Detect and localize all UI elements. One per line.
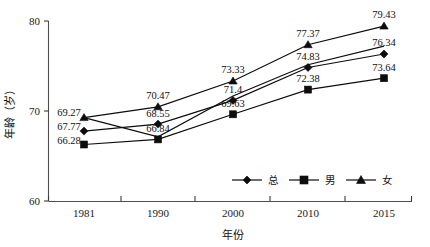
square-icon xyxy=(230,111,237,118)
data-label: 71.4 xyxy=(224,84,243,95)
y-tick-label-70: 70 xyxy=(29,105,41,117)
data-label: 77.37 xyxy=(296,28,320,39)
x-tick-label-2000: 2000 xyxy=(222,207,245,219)
axes-group xyxy=(44,21,412,202)
x-axis-title: 年份 xyxy=(222,228,244,242)
data-label: 73.33 xyxy=(221,64,245,75)
x-tick-labels: 1981 1990 2000 2010 2015 xyxy=(73,207,396,219)
diamond-icon xyxy=(380,50,388,58)
data-label: 66.84 xyxy=(146,123,170,134)
square-icon xyxy=(305,86,312,93)
legend-item-total[interactable]: 总 xyxy=(232,174,279,186)
data-label: 66.28 xyxy=(57,135,81,146)
data-label: 76.34 xyxy=(372,37,396,48)
data-label: 68.55 xyxy=(146,108,170,119)
diamond-icon xyxy=(304,64,312,72)
legend-item-female[interactable]: 女 xyxy=(346,174,392,186)
line-chart: 80 70 60 1981 1990 2000 2010 2015 年份 年龄（… xyxy=(0,0,430,247)
triangle-icon xyxy=(380,22,388,29)
x-tick-label-1981: 1981 xyxy=(73,207,95,219)
data-label: 69.63 xyxy=(221,98,245,109)
data-label: 70.47 xyxy=(146,90,170,101)
square-icon xyxy=(155,136,162,143)
triangle-icon xyxy=(229,77,237,84)
square-icon xyxy=(81,141,88,148)
diamond-icon xyxy=(243,176,251,184)
diamond-icon xyxy=(80,127,88,135)
y-axis-title: 年龄（岁） xyxy=(3,84,17,139)
chart-canvas: 80 70 60 1981 1990 2000 2010 2015 年份 年龄（… xyxy=(0,0,430,247)
data-label: 79.43 xyxy=(372,9,396,20)
data-label: 72.38 xyxy=(296,73,320,84)
data-label: 74.83 xyxy=(296,51,320,62)
legend-label-female: 女 xyxy=(382,174,392,186)
legend-label-male: 男 xyxy=(325,174,335,186)
y-tick-label-80: 80 xyxy=(29,15,41,27)
x-tick-label-2010: 2010 xyxy=(297,207,320,219)
square-icon xyxy=(381,75,388,82)
y-tick-labels: 80 70 60 xyxy=(29,15,41,207)
data-label: 69.27 xyxy=(57,107,81,118)
legend-item-male[interactable]: 男 xyxy=(289,174,335,186)
square-icon xyxy=(300,176,308,184)
chart-legend: 总 男 女 xyxy=(232,174,392,186)
y-tick-label-60: 60 xyxy=(29,195,41,207)
x-tick-label-2015: 2015 xyxy=(373,207,396,219)
data-label: 67.77 xyxy=(57,121,81,132)
x-tick-label-1990: 1990 xyxy=(147,207,170,219)
data-label: 73.64 xyxy=(372,62,396,73)
legend-label-total: 总 xyxy=(268,174,279,186)
